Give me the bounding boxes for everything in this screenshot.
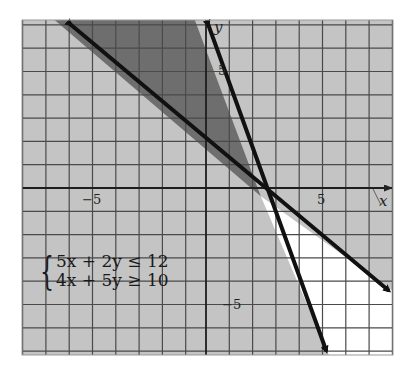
tick-label-x-5: 5: [317, 192, 325, 207]
inequality-system: { 5x + 2y ≤ 12 4x + 5y ≥ 10: [42, 252, 169, 290]
inequality-graph: [0, 0, 415, 373]
inequality-1: 5x + 2y ≤ 12: [42, 252, 169, 271]
tick-label-y-5: 5: [218, 63, 226, 78]
system-brace: {: [40, 250, 54, 290]
x-axis-label: x: [379, 192, 387, 210]
tick-label-y-neg5: −5: [222, 297, 241, 312]
y-axis-label: y: [214, 18, 222, 36]
inequality-2: 4x + 5y ≥ 10: [42, 271, 169, 290]
tick-label-x-neg5: −5: [82, 192, 101, 207]
